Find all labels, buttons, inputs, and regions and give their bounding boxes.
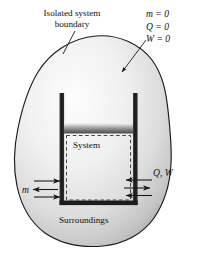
mass-flow-label: m <box>22 184 29 195</box>
system-label: System <box>73 140 100 151</box>
cylinder-left-wall <box>60 93 65 205</box>
isolated-boundary-label: Isolated system boundary <box>22 8 122 30</box>
equation-mass: m = 0 <box>146 8 170 21</box>
isolated-boundary-label-line1: Isolated system <box>44 8 101 18</box>
piston <box>64 123 133 134</box>
surroundings-label: Surroundings <box>59 215 109 226</box>
equation-heat: Q = 0 <box>146 21 170 34</box>
thermodynamics-isolated-system-figure: Isolated system boundary m = 0 Q = 0 W =… <box>0 0 198 267</box>
cylinder-bottom-wall <box>60 201 138 206</box>
equation-work: W = 0 <box>146 33 170 46</box>
zero-transfer-equations: m = 0 Q = 0 W = 0 <box>146 8 170 46</box>
heat-work-label: Q, W <box>153 167 173 178</box>
isolated-boundary-label-line2: boundary <box>22 19 122 30</box>
